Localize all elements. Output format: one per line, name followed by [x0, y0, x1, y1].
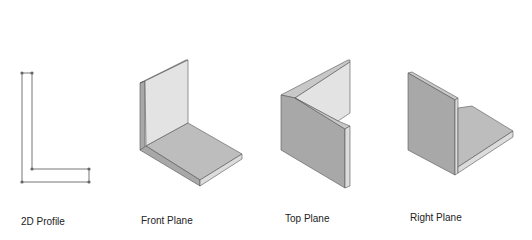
right-plane-label: Right Plane	[410, 212, 462, 223]
2d-profile-label: 2D Profile	[21, 216, 65, 227]
front-plane-extrusion	[140, 60, 242, 186]
2d-profile-sketch	[20, 71, 90, 183]
top-plane-label: Top Plane	[285, 213, 329, 224]
drawing-canvas	[0, 0, 532, 240]
sketch-vertices	[20, 71, 90, 183]
front-plane-label: Front Plane	[141, 215, 193, 226]
right-plane-extrusion	[408, 72, 513, 175]
top-plane-extrusion	[281, 60, 350, 188]
